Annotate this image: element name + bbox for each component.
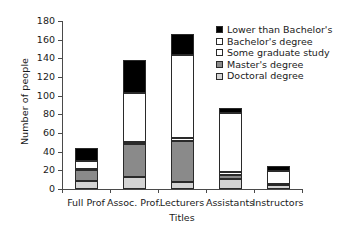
bar-segment bbox=[219, 108, 242, 114]
y-tick: 160 bbox=[58, 40, 62, 41]
y-tick-label: 60 bbox=[43, 127, 55, 138]
bar-segment bbox=[75, 170, 98, 180]
legend-item: Lower than Bachelor's bbox=[216, 24, 332, 36]
y-tick: 140 bbox=[58, 58, 62, 59]
legend-item: Doctoral degree bbox=[216, 70, 332, 82]
legend-label: Bachelor's degree bbox=[227, 37, 313, 47]
bar-segment bbox=[123, 142, 146, 144]
legend: Lower than Bachelor'sBachelor's degreeSo… bbox=[216, 24, 332, 82]
legend-label: Doctoral degree bbox=[227, 71, 304, 81]
y-tick: 100 bbox=[58, 96, 62, 97]
x-tick bbox=[62, 189, 63, 193]
x-axis-title: Titles bbox=[62, 212, 302, 223]
x-tick-label-full-prof: Full Prof bbox=[67, 197, 105, 208]
x-tick-label-assistants: Assistants bbox=[206, 197, 254, 208]
y-tick: 80 bbox=[58, 114, 62, 115]
y-tick-label: 40 bbox=[43, 146, 55, 157]
bar-segment bbox=[123, 93, 146, 142]
bar-segment bbox=[219, 113, 242, 172]
y-tick-label: 160 bbox=[37, 34, 55, 45]
legend-swatch-icon bbox=[216, 61, 223, 68]
bar-segment bbox=[219, 172, 242, 175]
x-tick bbox=[110, 189, 111, 193]
bar-lecturers bbox=[171, 34, 194, 189]
y-tick: 180 bbox=[58, 21, 62, 22]
y-tick-label: 120 bbox=[37, 71, 55, 82]
legend-item: Some graduate study bbox=[216, 47, 332, 59]
bar-segment bbox=[75, 148, 98, 161]
bar-segment bbox=[171, 182, 194, 189]
legend-item: Master's degree bbox=[216, 59, 332, 71]
bar-assistants bbox=[219, 108, 242, 189]
bar-assoc-prof bbox=[123, 60, 146, 189]
bar-segment bbox=[171, 34, 194, 55]
y-tick-label: 180 bbox=[37, 15, 55, 26]
legend-swatch-icon bbox=[216, 73, 223, 80]
bar-segment bbox=[75, 161, 98, 169]
x-tick-label-assoc-prof: Assoc. Prof. bbox=[107, 197, 161, 208]
bar-full-prof bbox=[75, 148, 98, 189]
x-tick bbox=[302, 189, 303, 193]
y-tick: 20 bbox=[58, 170, 62, 171]
y-tick-label: 140 bbox=[37, 52, 55, 63]
bar-instructors bbox=[267, 166, 290, 189]
bar-segment bbox=[267, 166, 290, 172]
x-tick-label-instructors: Instructors bbox=[252, 197, 303, 208]
y-axis-title: Number of people bbox=[19, 37, 30, 167]
y-axis-line bbox=[62, 21, 63, 190]
bar-segment bbox=[123, 177, 146, 189]
bar-segment bbox=[171, 141, 194, 182]
legend-swatch-icon bbox=[216, 38, 223, 45]
x-tick bbox=[254, 189, 255, 193]
legend-label: Master's degree bbox=[227, 60, 303, 70]
legend-label: Lower than Bachelor's bbox=[227, 25, 332, 35]
bar-segment bbox=[123, 60, 146, 93]
x-tick-label-lecturers: Lecturers bbox=[160, 197, 204, 208]
y-tick: 40 bbox=[58, 152, 62, 153]
bar-segment bbox=[219, 175, 242, 179]
y-tick-label: 20 bbox=[43, 164, 55, 175]
x-axis-line bbox=[62, 189, 302, 190]
bar-segment bbox=[267, 185, 290, 189]
y-tick: 60 bbox=[58, 133, 62, 134]
bar-segment bbox=[219, 179, 242, 189]
bar-segment bbox=[171, 55, 194, 138]
y-tick-label: 0 bbox=[49, 183, 55, 194]
bar-segment bbox=[267, 171, 290, 184]
legend-item: Bachelor's degree bbox=[216, 36, 332, 48]
bar-segment bbox=[123, 144, 146, 177]
legend-swatch-icon bbox=[216, 49, 223, 56]
bar-segment bbox=[171, 138, 194, 142]
legend-swatch-icon bbox=[216, 26, 223, 33]
y-tick: 120 bbox=[58, 77, 62, 78]
x-tick bbox=[206, 189, 207, 193]
stacked-bar-chart: Number of people 02040608010012014016018… bbox=[0, 0, 352, 233]
y-tick-label: 80 bbox=[43, 108, 55, 119]
y-tick-label: 100 bbox=[37, 90, 55, 101]
bar-segment bbox=[75, 181, 98, 189]
x-tick bbox=[158, 189, 159, 193]
legend-label: Some graduate study bbox=[227, 48, 330, 58]
